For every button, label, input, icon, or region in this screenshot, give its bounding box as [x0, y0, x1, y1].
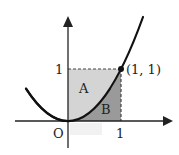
- parabola-diagram: (1, 1) 1 1 O A B: [0, 0, 179, 155]
- parabola-left-branch: [26, 89, 68, 121]
- x-tick-label: 1: [116, 126, 124, 141]
- region-b-label: B: [101, 102, 111, 117]
- point-label: (1, 1): [126, 62, 161, 77]
- point-1-1: [118, 66, 124, 72]
- region-a-label: A: [78, 81, 89, 96]
- x-axis-arrow-icon: [163, 116, 173, 126]
- y-tick-label: 1: [55, 62, 63, 77]
- light-band: [70, 123, 102, 135]
- origin-label: O: [53, 126, 64, 141]
- y-axis-arrow-icon: [63, 16, 73, 27]
